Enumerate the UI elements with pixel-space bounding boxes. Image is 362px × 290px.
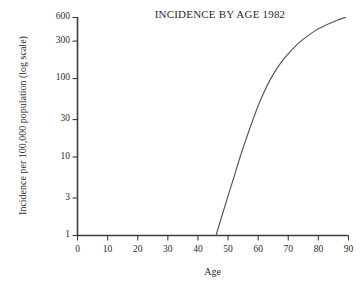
x-axis-label: Age bbox=[77, 266, 348, 277]
x-tick-label: 60 bbox=[244, 244, 272, 254]
x-tick-label: 30 bbox=[154, 244, 182, 254]
x-tick-label: 40 bbox=[184, 244, 212, 254]
x-tick-label: 0 bbox=[64, 244, 92, 254]
x-tick-label: 50 bbox=[214, 244, 242, 254]
x-tick-label: 80 bbox=[304, 244, 332, 254]
chart-title: INCIDENCE BY AGE 1982 bbox=[100, 8, 340, 20]
y-tick-label: 30 bbox=[32, 113, 70, 123]
y-tick-label: 3 bbox=[32, 192, 70, 202]
y-tick-label: 600 bbox=[32, 11, 70, 21]
chart-figure: INCIDENCE BY AGE 1982 Incidence per 100,… bbox=[0, 0, 362, 290]
y-tick-label: 10 bbox=[32, 151, 70, 161]
y-axis-label: Incidence per 100,000 population (log sc… bbox=[17, 21, 28, 231]
y-tick-label: 1 bbox=[32, 229, 70, 239]
x-tick-label: 70 bbox=[274, 244, 302, 254]
axes-lines bbox=[77, 17, 349, 236]
x-tick-label: 90 bbox=[335, 244, 362, 254]
x-tick-label: 10 bbox=[94, 244, 122, 254]
incidence-curve bbox=[216, 18, 345, 236]
y-tick-label: 100 bbox=[32, 72, 70, 82]
x-tick-label: 20 bbox=[124, 244, 152, 254]
y-tick-label: 300 bbox=[32, 35, 70, 45]
